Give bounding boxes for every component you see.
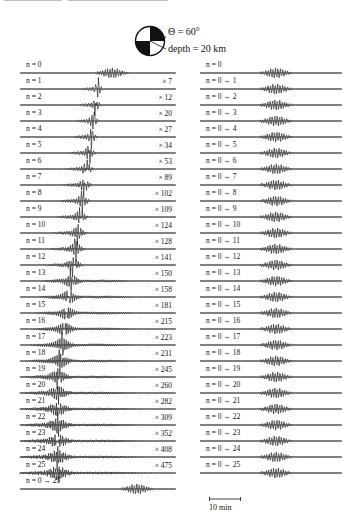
overtone-label: n = 20	[26, 380, 45, 389]
overtone-label: n = 5	[26, 140, 41, 149]
seismogram-row: n = 3× 20	[20, 110, 176, 126]
seismogram-trace-icon	[20, 110, 176, 126]
seismogram-trace-icon	[20, 142, 176, 158]
overtone-label: n = 14	[26, 284, 45, 293]
overtone-label: n = 12	[26, 252, 45, 261]
seismogram-row: n = 4× 27	[20, 126, 176, 142]
amplification-factor: × 53	[158, 157, 172, 166]
seismogram-trace-icon	[20, 62, 176, 78]
amplification-factor: × 260	[155, 381, 172, 390]
overtone-label: n = 0 → 1	[206, 76, 236, 85]
scale-bar-label: 10 min	[209, 503, 231, 512]
overtone-label: n = 4	[26, 124, 41, 133]
seismogram-row: n = 0 → 25	[20, 478, 176, 494]
overtone-label: n = 0 → 12	[206, 252, 240, 261]
overtone-label: n = 0 → 14	[206, 284, 240, 293]
overtone-label: n = 0 → 19	[206, 364, 240, 373]
overtone-label: n = 0 → 24	[206, 444, 240, 453]
amplification-factor: × 245	[155, 365, 172, 374]
amplification-factor: × 282	[155, 397, 172, 406]
amplification-factor: × 7	[162, 77, 172, 86]
amplification-factor: × 89	[158, 173, 172, 182]
overtone-label: n = 21	[26, 396, 45, 405]
overtone-label: n = 0 → 2	[206, 92, 236, 101]
overtone-label: n = 0 → 20	[206, 380, 240, 389]
overtone-label: n = 24	[26, 444, 45, 453]
overtone-label: n = 0 → 22	[206, 412, 240, 421]
overtone-label: n = 0 → 16	[206, 316, 240, 325]
overtone-label: n = 18	[26, 348, 45, 357]
overtone-label: n = 0	[26, 60, 41, 69]
focal-mechanism-beachball-icon	[134, 25, 166, 57]
overtone-label: n = 0 → 9	[206, 204, 236, 213]
seismogram-row: n = 2× 12	[20, 94, 176, 110]
amplification-factor: × 223	[155, 333, 172, 342]
overtone-label: n = 0 → 15	[206, 300, 240, 309]
depth-label: depth = 20 km	[168, 43, 226, 54]
overtone-label: n = 0 → 21	[206, 396, 240, 405]
overtone-label: n = 0 → 18	[206, 348, 240, 357]
source-parameters: Θ = 60° depth = 20 km	[134, 25, 274, 61]
amplification-factor: × 181	[155, 301, 172, 310]
overtone-label: n = 0 → 13	[206, 268, 240, 277]
seismogram-trace-icon	[20, 78, 176, 94]
amplification-factor: × 12	[158, 93, 172, 102]
time-scale-bar: 10 min	[209, 497, 249, 517]
seismogram-row: n = 5× 34	[20, 142, 176, 158]
amplification-factor: × 102	[155, 189, 172, 198]
overtone-label: n = 19	[26, 364, 45, 373]
overtone-label: n = 15	[26, 300, 45, 309]
seismogram-trace-icon	[20, 126, 176, 142]
seismogram-row: n = 6× 53	[20, 158, 176, 174]
overtone-label: n = 0 → 3	[206, 108, 236, 117]
overtone-label: n = 1	[26, 76, 41, 85]
seismogram-row: n = 7× 89	[20, 174, 176, 190]
seismogram-row: n = 0	[20, 62, 176, 78]
seismogram-row: n = 8× 102	[20, 190, 176, 206]
amplification-factor: × 128	[155, 237, 172, 246]
overtone-label: n = 0 → 11	[206, 236, 240, 245]
amplification-factor: × 215	[155, 317, 172, 326]
overtone-label: n = 10	[26, 220, 45, 229]
theta-label: Θ = 60°	[168, 26, 200, 37]
amplification-factor: × 352	[155, 429, 172, 438]
overtone-label: n = 23	[26, 428, 45, 437]
amplification-factor: × 309	[155, 413, 172, 422]
amplification-factor: × 109	[155, 205, 172, 214]
amplification-factor: × 124	[155, 221, 172, 230]
overtone-label: n = 0	[206, 60, 221, 69]
amplification-factor: × 34	[158, 141, 172, 150]
amplification-factor: × 475	[155, 461, 172, 470]
overtone-label: n = 0 → 6	[206, 156, 236, 165]
overtone-label: n = 0 → 4	[206, 124, 236, 133]
amplification-factor: × 141	[155, 253, 172, 262]
seismogram-trace-icon	[20, 94, 176, 110]
overtone-label: n = 7	[26, 172, 41, 181]
seismogram-trace-icon	[20, 158, 176, 174]
overtone-label: n = 0 → 5	[206, 140, 236, 149]
overtone-label: n = 0 → 10	[206, 220, 240, 229]
overtone-label: n = 0 → 25	[206, 460, 240, 469]
seismogram-trace-icon	[20, 190, 176, 206]
amplification-factor: × 150	[155, 269, 172, 278]
overtone-label: n = 13	[26, 268, 45, 277]
overtone-label: n = 9	[26, 204, 41, 213]
overtone-label: n = 0 → 8	[206, 188, 236, 197]
scale-bar-line-icon	[209, 497, 241, 501]
cropped-caption-text	[4, 0, 204, 3]
overtone-label: n = 25	[26, 460, 45, 469]
overtone-label: n = 6	[26, 156, 41, 165]
seismogram-row: n = 0 → 25	[200, 462, 342, 478]
amplification-factor: × 408	[155, 445, 172, 454]
overtone-label: n = 17	[26, 332, 45, 341]
seismogram-trace-icon	[20, 174, 176, 190]
overtone-label: n = 0 → 23	[206, 428, 240, 437]
overtone-label: n = 22	[26, 412, 45, 421]
overtone-label: n = 2	[26, 92, 41, 101]
overtone-label: n = 0 → 17	[206, 332, 240, 341]
overtone-label: n = 8	[26, 188, 41, 197]
amplification-factor: × 231	[155, 349, 172, 358]
seismogram-row: n = 1× 7	[20, 78, 176, 94]
overtone-label: n = 11	[26, 236, 45, 245]
amplification-factor: × 20	[158, 109, 172, 118]
